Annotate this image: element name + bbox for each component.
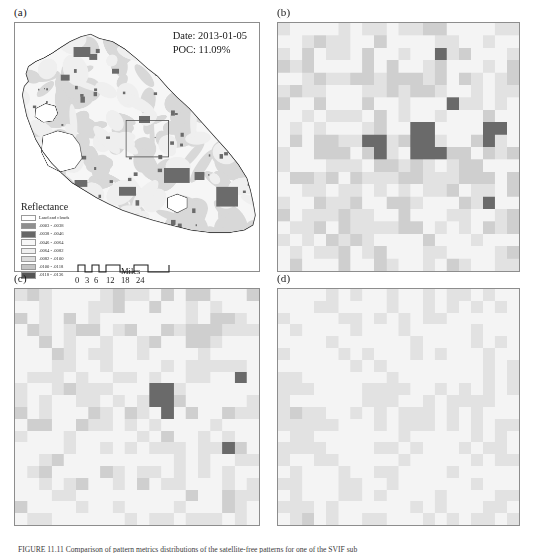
- legend-row: .0118 - .0136: [21, 271, 69, 279]
- panel-d-label: (d): [277, 272, 290, 284]
- legend-label: .0064 - .0082: [39, 248, 64, 254]
- panel-a-label: (a): [14, 6, 27, 18]
- figure-caption: FIGURE 11.11 Comparison of pattern metri…: [18, 545, 518, 553]
- legend-swatch: [21, 256, 36, 262]
- scale-tick: 12: [106, 275, 115, 285]
- scale-tick: 0: [75, 275, 79, 285]
- legend-rows: Land and clouds.0003 - .0038.0038 - .004…: [21, 214, 69, 280]
- panel-b-label: (b): [277, 6, 290, 18]
- legend-label: .0046 - .0064: [39, 240, 64, 246]
- map-poc-text: POC: 11.09%: [173, 43, 247, 57]
- scale-tick: 6: [94, 275, 98, 285]
- raster-grid-b: [278, 23, 519, 271]
- legend-row: .0046 - .0064: [21, 239, 69, 247]
- scale-tick-labels: 036121824: [75, 275, 173, 287]
- legend-row: .0003 - .0038: [21, 222, 69, 230]
- legend-label: .0082 - .0100: [39, 256, 64, 262]
- map-date-text: Date: 2013-01-05: [173, 29, 247, 43]
- raster-grid-d: [278, 289, 519, 525]
- legend-row: .0064 - .0082: [21, 247, 69, 255]
- scale-tick: 3: [85, 275, 89, 285]
- scale-tick: 24: [136, 275, 145, 285]
- panel-d-frame: [277, 288, 520, 526]
- panel-c-label: (c): [14, 272, 27, 284]
- legend-row: .0100 - .0118: [21, 263, 69, 271]
- legend-swatch: [21, 239, 36, 245]
- panel-a-frame: Date: 2013-01-05 POC: 11.09% Reflectance…: [14, 22, 260, 272]
- legend-title: Reflectance: [21, 201, 69, 213]
- legend-swatch: [21, 231, 36, 237]
- map-legend: Reflectance Land and clouds.0003 - .0038…: [21, 201, 69, 280]
- legend-label: Land and clouds: [39, 215, 69, 221]
- legend-row: Land and clouds: [21, 214, 69, 222]
- legend-row: .0082 - .0100: [21, 255, 69, 263]
- raster-grid-c: [15, 289, 259, 525]
- legend-label: .0118 - .0136: [39, 272, 63, 278]
- legend-label: .0100 - .0118: [39, 264, 63, 270]
- map-annotation: Date: 2013-01-05 POC: 11.09%: [173, 29, 247, 56]
- legend-label: .0038 - .0046: [39, 231, 64, 237]
- legend-swatch: [21, 215, 36, 221]
- legend-swatch: [21, 264, 36, 270]
- legend-swatch: [21, 248, 36, 254]
- panel-c-frame: [14, 288, 260, 526]
- figure-container: (a) Date: 2013-01-05 POC: 11.09% Reflect…: [0, 0, 533, 553]
- legend-row: .0038 - .0046: [21, 230, 69, 238]
- panel-b-frame: [277, 22, 520, 272]
- scale-tick: 18: [121, 275, 130, 285]
- legend-swatch: [21, 223, 36, 229]
- legend-label: .0003 - .0038: [39, 223, 64, 229]
